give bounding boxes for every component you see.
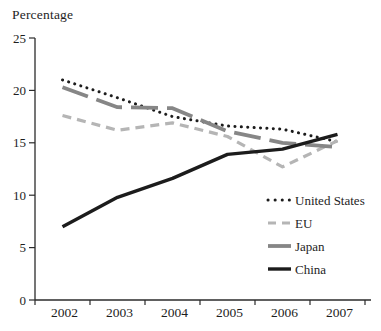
line-chart-canvas: 0510152025200220032004200520062007United… bbox=[0, 0, 381, 331]
chart: Percentage 05101520252002200320042005200… bbox=[0, 0, 381, 331]
x-tick-label: 2007 bbox=[326, 305, 353, 320]
legend-label-japan: Japan bbox=[295, 239, 325, 254]
series-line-eu bbox=[63, 116, 338, 167]
series-line-united-states bbox=[63, 80, 338, 142]
x-tick-label: 2006 bbox=[271, 305, 298, 320]
x-tick-label: 2004 bbox=[161, 305, 188, 320]
y-tick-label: 25 bbox=[13, 31, 26, 46]
y-tick-label: 5 bbox=[20, 240, 27, 255]
x-tick-label: 2005 bbox=[216, 305, 243, 320]
y-tick-label: 15 bbox=[13, 135, 26, 150]
x-tick-label: 2003 bbox=[106, 305, 133, 320]
legend-label-united-states: United States bbox=[295, 193, 365, 208]
y-tick-label: 10 bbox=[13, 188, 26, 203]
y-tick-label: 20 bbox=[13, 83, 26, 98]
legend-label-china: China bbox=[295, 262, 326, 277]
y-tick-label: 0 bbox=[20, 293, 27, 308]
series-line-china bbox=[63, 134, 338, 226]
legend-label-eu: EU bbox=[295, 216, 313, 231]
x-tick-label: 2002 bbox=[51, 305, 78, 320]
series-line-japan bbox=[63, 87, 338, 147]
